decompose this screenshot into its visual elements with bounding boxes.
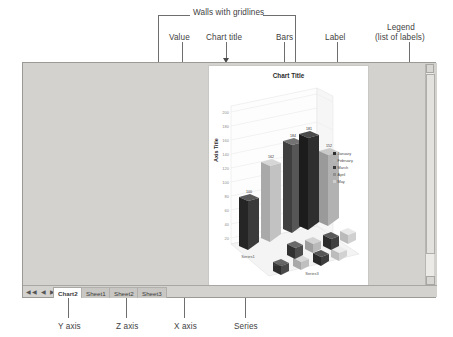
vertical-scrollbar[interactable] <box>425 64 434 285</box>
sheet-tab-sheet1[interactable]: Sheet1 <box>81 287 111 298</box>
value-label: 184 <box>286 134 300 138</box>
category-label: Series1 <box>237 254 259 259</box>
leader-walls-right-drop <box>295 15 296 66</box>
chart-legend[interactable]: January February March April May <box>333 150 363 185</box>
sheet-tab-sheet3[interactable]: Sheet3 <box>137 287 167 298</box>
annotation-bars: Bars <box>276 33 293 42</box>
category-label: Series2 <box>269 262 291 267</box>
annotation-legend-line1: Legend <box>387 23 415 32</box>
legend-swatch-icon <box>333 173 336 176</box>
legend-item-april[interactable]: April <box>333 171 363 178</box>
annotation-x-axis: X axis <box>174 322 197 331</box>
scrollbar-thumb[interactable] <box>426 74 435 254</box>
value-label: 162 <box>264 155 278 159</box>
legend-swatch-icon <box>333 159 336 162</box>
legend-item-may[interactable]: May <box>333 178 363 185</box>
legend-item-march[interactable]: March <box>333 164 363 171</box>
legend-item-february[interactable]: February <box>333 157 363 164</box>
leader-y-axis <box>68 296 69 318</box>
legend-label: May <box>338 180 345 184</box>
legend-swatch-icon <box>333 180 336 183</box>
annotation-chart-title: Chart title <box>206 33 242 42</box>
sheet-tab-bar: ◀◀ ◀ ▶ ▶▶ Chart2 Sheet1 Sheet2 Sheet3 <box>23 285 437 297</box>
value-label: 152 <box>322 144 336 148</box>
sheet-tab-chart2[interactable]: Chart2 <box>53 287 83 298</box>
annotation-walls-with-gridlines: Walls with gridlines <box>193 8 264 17</box>
chart-sheet-canvas[interactable]: Chart Title Axis Title Axis Title 200 18… <box>208 65 369 286</box>
value-label: 100 <box>242 190 256 194</box>
excel-window: Chart Title Axis Title Axis Title 200 18… <box>22 62 436 298</box>
annotation-y-axis: Y axis <box>58 322 81 331</box>
legend-label: April <box>338 173 346 177</box>
worksheet-left-gray-area <box>23 63 208 286</box>
leader-walls-right <box>263 15 295 16</box>
annotation-z-axis: Z axis <box>116 322 138 331</box>
annotation-value: Value <box>169 33 190 42</box>
leader-walls-left <box>158 15 190 16</box>
annotation-series: Series <box>234 322 258 331</box>
legend-label: February <box>338 159 353 163</box>
leader-walls-left-drop <box>158 15 159 66</box>
legend-label: March <box>338 166 349 170</box>
legend-swatch-icon <box>333 166 336 169</box>
sheet-tab-sheet2[interactable]: Sheet2 <box>109 287 139 298</box>
chart-3d-column[interactable]: Chart Title Axis Title Axis Title 200 18… <box>209 66 368 285</box>
scroll-up-button[interactable] <box>426 64 434 73</box>
category-label: Series3 <box>301 271 323 276</box>
legend-label: January <box>338 152 352 156</box>
legend-item-january[interactable]: January <box>333 150 363 157</box>
scroll-down-button[interactable] <box>426 276 435 285</box>
value-label: 181 <box>302 127 316 131</box>
annotation-label: Label <box>325 33 346 42</box>
annotation-legend-line2: (list of labels) <box>375 33 425 42</box>
legend-swatch-icon <box>333 152 336 155</box>
